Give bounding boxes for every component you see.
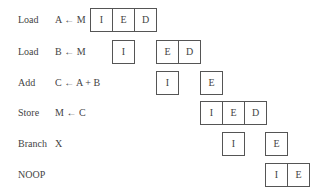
instruction-op: NOOP	[18, 163, 45, 187]
stage-box-instruction-fetch: I	[200, 101, 223, 125]
instruction-operand: B ← M	[55, 40, 86, 64]
pipeline-row-branch: Branch X I E	[0, 132, 323, 156]
instruction-op: Add	[18, 71, 35, 95]
stage-box-instruction-fetch: I	[156, 71, 179, 95]
stage-box-instruction-fetch: I	[265, 163, 288, 187]
instruction-op: Load	[18, 8, 39, 32]
pipeline-row-load-b: Load B ← M I E D	[0, 40, 323, 64]
pipeline-row-noop: NOOP I E	[0, 163, 323, 187]
stage-box-execute: E	[112, 8, 135, 32]
stage-box-execute: E	[156, 40, 179, 64]
instruction-operand: M ← C	[55, 101, 86, 125]
instruction-op: Store	[18, 101, 39, 125]
pipeline-row-add: Add C ← A + B I E	[0, 71, 323, 95]
stage-box-execute: E	[222, 101, 245, 125]
instruction-operand: A ← M	[55, 8, 86, 32]
instruction-operand: C ← A + B	[55, 71, 100, 95]
stage-box-execute: E	[200, 71, 223, 95]
pipeline-row-store: Store M ← C I E D	[0, 101, 323, 125]
stage-box-instruction-fetch: I	[112, 40, 135, 64]
stage-box-instruction-fetch: I	[222, 132, 245, 156]
stage-box-data: D	[134, 8, 157, 32]
stage-box-instruction-fetch: I	[90, 8, 113, 32]
stage-box-data: D	[244, 101, 267, 125]
stage-box-data: D	[178, 40, 201, 64]
instruction-operand: X	[55, 132, 62, 156]
stage-box-execute: E	[287, 163, 310, 187]
stage-box-execute: E	[265, 132, 288, 156]
instruction-op: Branch	[18, 132, 47, 156]
pipeline-row-load-a: Load A ← M I E D	[0, 8, 323, 32]
instruction-op: Load	[18, 40, 39, 64]
